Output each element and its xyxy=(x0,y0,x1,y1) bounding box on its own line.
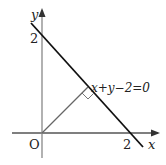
coordinate-diagram: y 2 x+y−2=0 2 x O xyxy=(0,0,166,165)
line-equation-label: x+y−2=0 xyxy=(91,82,150,94)
y-axis-label: y xyxy=(31,8,38,21)
x-axis-label: x xyxy=(148,138,155,151)
x-axis-arrow-icon xyxy=(151,130,160,137)
origin-label: O xyxy=(29,138,40,151)
perpendicular-segment xyxy=(42,87,88,133)
y-axis-arrow-icon xyxy=(39,8,46,17)
y-intercept-label: 2 xyxy=(30,32,38,45)
x-intercept-label: 2 xyxy=(123,138,131,151)
